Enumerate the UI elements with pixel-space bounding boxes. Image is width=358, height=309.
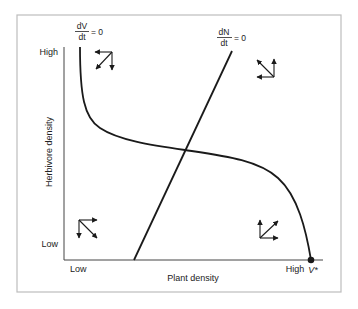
v-iso-denominator: dt bbox=[78, 32, 86, 42]
v-star-point bbox=[308, 257, 315, 264]
x-tick-low: Low bbox=[70, 264, 87, 274]
n-iso-numerator: dN bbox=[219, 27, 230, 37]
vector-arrows-top-left bbox=[95, 52, 112, 70]
arrow-up-right-icon bbox=[260, 221, 278, 238]
v-iso-equals: = 0 bbox=[91, 27, 103, 37]
plant-isocline-label: dV dt = 0 bbox=[75, 21, 103, 42]
v-star-label: V* bbox=[308, 265, 318, 275]
plant-isocline-curve bbox=[80, 47, 311, 260]
n-iso-denominator: dt bbox=[220, 38, 228, 48]
vector-arrows-bottom-right bbox=[260, 220, 278, 238]
n-iso-equals: = 0 bbox=[234, 33, 246, 43]
arrow-down-left-icon bbox=[96, 52, 112, 69]
y-axis-title: Herbivore density bbox=[44, 116, 54, 187]
vector-arrows-bottom-left bbox=[79, 220, 97, 238]
y-tick-low: Low bbox=[41, 239, 58, 249]
isocline-diagram: High Low Low High Plant density Herbivor… bbox=[0, 0, 358, 309]
arrow-down-right-icon bbox=[79, 220, 97, 238]
x-axis-title: Plant density bbox=[167, 273, 219, 283]
v-iso-numerator: dV bbox=[77, 21, 88, 31]
herbivore-isocline-label: dN dt = 0 bbox=[217, 27, 246, 48]
x-tick-high: High bbox=[286, 264, 305, 274]
axes bbox=[64, 47, 323, 260]
y-tick-high: High bbox=[39, 47, 58, 57]
figure-frame bbox=[17, 15, 341, 292]
arrow-up-left-icon bbox=[257, 60, 274, 77]
vector-arrows-top-right bbox=[257, 59, 274, 77]
